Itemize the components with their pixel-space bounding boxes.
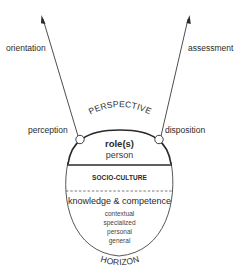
knowledge-item: contextual xyxy=(105,211,135,218)
assessment-label: assessment xyxy=(188,44,233,53)
socio-culture-label: SOCIO-CULTURE xyxy=(92,175,147,182)
disposition-node xyxy=(155,135,163,143)
knowledge-item: personal xyxy=(107,229,132,236)
assessment-arrow xyxy=(161,19,188,136)
knowledge-item: specialized xyxy=(103,220,135,227)
orientation-arrowhead-icon xyxy=(41,15,46,24)
perspective-label: PERSPECTIVE xyxy=(87,99,153,116)
orientation-label: orientation xyxy=(6,44,46,53)
perception-node xyxy=(76,135,84,143)
knowledge-competence-label: knowledge & competence xyxy=(68,197,171,206)
perception-label: perception xyxy=(28,126,68,135)
roles-title: role(s) xyxy=(105,139,134,149)
orientation-arrow xyxy=(43,19,78,136)
knowledge-item: general xyxy=(109,238,131,245)
disposition-label: disposition xyxy=(165,126,205,135)
assessment-arrowhead-icon xyxy=(187,15,191,24)
person-label: person xyxy=(106,151,134,160)
